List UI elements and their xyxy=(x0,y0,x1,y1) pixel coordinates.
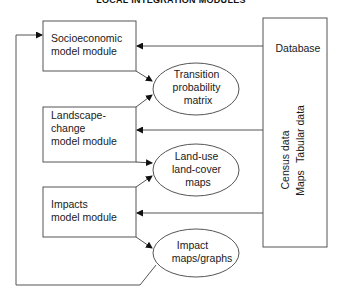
output-transition-matrix: Transition probability matrix xyxy=(153,63,239,115)
arrow-socioeconomic-to-transition xyxy=(136,71,152,81)
module-impacts: Impacts model module xyxy=(43,187,136,237)
database-item-maps: Maps xyxy=(294,170,306,196)
database-label: Database xyxy=(276,42,321,54)
arrow-impacts-to-impactmaps xyxy=(136,237,152,248)
database-box: Database Tabular data Census data Maps xyxy=(263,18,327,247)
arrow-impacts-to-landuse xyxy=(136,176,152,187)
module-socioeconomic-label: Socioeconomic model module xyxy=(51,32,125,57)
diagram-title: LOCAL INTEGRATION MODULES xyxy=(96,0,246,5)
output-impact-maps: Impact maps/graphs xyxy=(153,229,239,277)
integration-diagram: LOCAL INTEGRATION MODULES Socioeconomic … xyxy=(0,0,342,297)
database-item-tabular: Tabular data xyxy=(294,105,306,163)
arrow-landscape-to-landuse xyxy=(136,162,152,163)
module-landscape-change: Landscape- change model module xyxy=(43,107,136,162)
output-landuse-maps: Land-use land-cover maps xyxy=(153,144,239,196)
module-socioeconomic: Socioeconomic model module xyxy=(43,21,136,71)
arrow-landscape-to-transition xyxy=(136,95,152,107)
database-item-census: Census data xyxy=(279,130,291,189)
